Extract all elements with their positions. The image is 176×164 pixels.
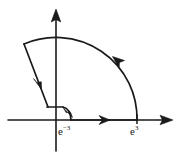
contour-path-group [24,37,137,124]
contour-diagram-canvas [0,0,176,164]
contour-integral-figure: e−3 e3 [0,0,176,164]
inner-radius-exponent: −3 [63,124,70,132]
outer-arc-segment [24,37,137,120]
outer-radius-exponent: 3 [135,124,139,132]
inner-radius-label: e−3 [58,126,70,137]
outer-radius-label: e3 [130,126,138,137]
axes-group [8,9,173,151]
radial-line-segment [24,44,48,107]
